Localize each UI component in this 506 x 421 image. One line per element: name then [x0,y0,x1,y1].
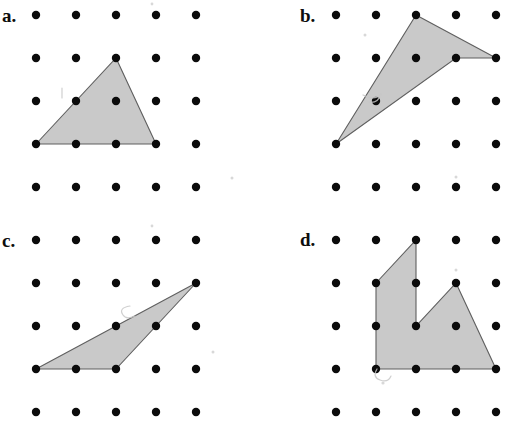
grid-dot [72,11,80,19]
grid-dot [452,322,460,330]
grid-dot [32,97,40,105]
grid-dot [112,183,120,191]
dot-grid-b [329,8,503,194]
grid-dot [192,183,200,191]
grid-dot [32,140,40,148]
grid-dot [452,183,460,191]
grid-dot [332,408,340,416]
grid-dot [412,97,420,105]
scan-speck [231,177,234,180]
grid-dot [152,408,160,416]
grid-dot [452,236,460,244]
grid-dot [492,408,500,416]
grid-dot [152,183,160,191]
grid-dot [492,236,500,244]
grid-dot [332,97,340,105]
grid-dot [452,279,460,287]
grid-dot [452,11,460,19]
grid-dot [192,279,200,287]
grid-dot [192,11,200,19]
grid-dot [372,54,380,62]
panel-label-b: b. [300,6,315,25]
grid-dot [332,279,340,287]
grid-dot [372,97,380,105]
grid-dot [192,408,200,416]
dot-grid-a [29,8,203,194]
grid-dot [112,279,120,287]
grid-dot [372,279,380,287]
grid-dot [152,54,160,62]
dot-grid-c [29,233,203,419]
grid-dot [372,322,380,330]
grid-dot [412,408,420,416]
grid-dot [72,365,80,373]
scan-speck [212,351,215,354]
grid-dot [152,236,160,244]
grid-dot [72,322,80,330]
panel-label-a: a. [2,6,16,25]
grid-dot [412,140,420,148]
grid-dot [492,322,500,330]
grid-dot [412,183,420,191]
grid-dot [112,140,120,148]
grid-dot [32,322,40,330]
panel-label-d: d. [300,230,315,249]
scan-speck [151,225,154,228]
shape-b-concave-quadrilateral [336,15,496,144]
grid-dot [492,54,500,62]
grid-dot [72,408,80,416]
grid-dot [452,97,460,105]
grid-dot [372,183,380,191]
grid-dot [412,236,420,244]
scan-speck [151,3,154,6]
panel-b [329,8,503,194]
grid-dot [32,54,40,62]
grid-dot [112,322,120,330]
grid-dot [152,279,160,287]
grid-dot [452,54,460,62]
panel-c [29,233,203,419]
grid-dot [492,365,500,373]
grid-dot [412,279,420,287]
grid-dot [332,11,340,19]
grid-dot [32,11,40,19]
grid-dot [412,11,420,19]
shape-d-concave-polygon [376,240,496,369]
grid-dot [192,322,200,330]
grid-dot [452,408,460,416]
grid-dot [412,54,420,62]
grid-dot [152,11,160,19]
grid-dot [492,140,500,148]
grid-dot [192,365,200,373]
grid-dot [72,279,80,287]
grid-dot [112,365,120,373]
grid-dot [32,408,40,416]
grid-dot [32,183,40,191]
grid-dot [372,11,380,19]
grid-dot [372,140,380,148]
grid-dot [412,322,420,330]
grid-dot [332,54,340,62]
grid-dot [152,97,160,105]
grid-dot [492,11,500,19]
grid-dot [152,365,160,373]
panel-label-c: c. [2,231,15,250]
grid-dot [192,97,200,105]
grid-dot [332,183,340,191]
grid-dot [32,279,40,287]
grid-dot [492,279,500,287]
grid-dot [372,365,380,373]
grid-dot [452,365,460,373]
grid-dot [152,322,160,330]
grid-dot [112,54,120,62]
panel-d [329,233,503,419]
grid-dot [72,183,80,191]
grid-dot [372,236,380,244]
grid-dot [72,140,80,148]
grid-dot [332,322,340,330]
grid-dot [332,140,340,148]
grid-dot [72,97,80,105]
grid-dot [32,365,40,373]
grid-dot [192,236,200,244]
